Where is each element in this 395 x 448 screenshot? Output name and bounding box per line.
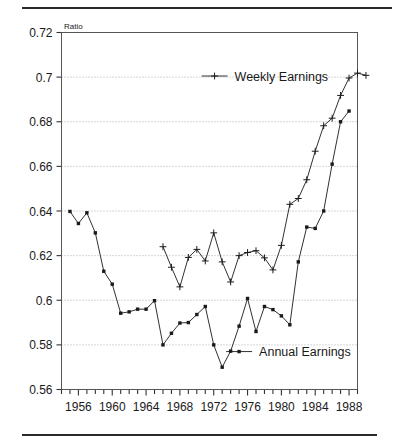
marker-square (153, 299, 156, 302)
marker-square (288, 323, 291, 326)
marker-square (271, 308, 274, 311)
y-tick-label: 0.68 (29, 115, 53, 129)
series-weekly-earnings (160, 70, 370, 291)
figure-container: 0.560.580.60.620.640.660.680.70.72 19561… (0, 0, 395, 448)
x-tick-label: 1972 (200, 400, 227, 414)
y-axis-label: Ratio (64, 22, 83, 31)
y-tick-label: 0.56 (29, 383, 53, 397)
marker-square (237, 350, 240, 353)
marker-square (305, 225, 308, 228)
marker-square (136, 307, 139, 310)
marker-square (322, 209, 325, 212)
x-axis-tick-labels: 195619601964196819721976198019841988 (65, 400, 363, 414)
line-chart: 0.560.580.60.620.640.660.680.70.72 19561… (0, 14, 395, 426)
marker-square (111, 282, 114, 285)
marker-square (330, 162, 333, 165)
marker-square (144, 307, 147, 310)
x-tick-label: 1976 (234, 400, 261, 414)
marker-square (254, 330, 257, 333)
marker-square (94, 231, 97, 234)
y-tick-label: 0.6 (36, 294, 53, 308)
legend-item-weekly-earnings: Weekly Earnings (202, 70, 329, 84)
y-tick-label: 0.66 (29, 160, 53, 174)
marker-square (339, 120, 342, 123)
x-tick-label: 1980 (268, 400, 295, 414)
x-tick-label: 1964 (133, 400, 160, 414)
marker-square (178, 321, 181, 324)
series-annual-earnings (68, 109, 350, 369)
legend-label: Weekly Earnings (235, 70, 329, 84)
marker-square (280, 314, 283, 317)
x-tick-label: 1956 (65, 400, 92, 414)
marker-square (297, 260, 300, 263)
y-tick-label: 0.72 (29, 26, 53, 40)
marker-square (170, 332, 173, 335)
y-tick-label: 0.62 (29, 249, 53, 263)
marker-square (347, 109, 350, 112)
marker-square (187, 321, 190, 324)
marker-square (246, 297, 249, 300)
y-tick-label: 0.58 (29, 338, 53, 352)
marker-square (220, 365, 223, 368)
legend-label: Annual Earnings (259, 345, 351, 359)
marker-square (263, 305, 266, 308)
series-line (70, 111, 349, 367)
y-tick-label: 0.7 (36, 71, 53, 85)
chart-svg: 0.560.580.60.620.640.660.680.70.72 19561… (0, 14, 395, 426)
x-tick-label: 1988 (336, 400, 363, 414)
marker-square (161, 343, 164, 346)
x-tick-label: 1984 (302, 400, 329, 414)
grid-lines (62, 77, 358, 345)
bottom-horizontal-rule (22, 434, 377, 436)
x-axis-ticks (62, 390, 358, 396)
marker-square (119, 311, 122, 314)
marker-square (127, 310, 130, 313)
x-tick-label: 1968 (167, 400, 194, 414)
y-tick-label: 0.64 (29, 205, 53, 219)
marker-square (102, 270, 105, 273)
marker-square (212, 343, 215, 346)
top-horizontal-rule (22, 7, 392, 9)
y-axis-tick-labels: 0.560.580.60.620.640.660.680.70.72 (29, 26, 53, 397)
marker-square (85, 211, 88, 214)
marker-square (314, 227, 317, 230)
marker-square (77, 222, 80, 225)
marker-square (204, 305, 207, 308)
x-tick-label: 1960 (99, 400, 126, 414)
marker-square (68, 210, 71, 213)
legend-item-annual-earnings: Annual Earnings (226, 345, 351, 359)
marker-square (237, 324, 240, 327)
marker-square (195, 313, 198, 316)
y-axis-ticks (57, 33, 62, 390)
